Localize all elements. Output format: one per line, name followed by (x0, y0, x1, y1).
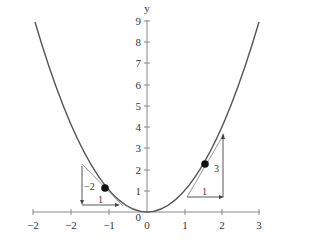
y-tick-label: 9 (136, 15, 142, 27)
y-axis-label: y (144, 2, 150, 14)
origin-label: 0 (136, 211, 142, 223)
y-tick-label: 4 (136, 121, 142, 133)
right-rise-label: 3 (214, 163, 219, 174)
y-tick-label: 7 (136, 57, 142, 69)
right-point-marker (201, 160, 209, 168)
y-tick-label: 1 (136, 185, 142, 197)
left-point-marker (101, 184, 109, 192)
left-rise-label: −2 (84, 181, 95, 192)
left-run-label: 1 (98, 194, 103, 205)
x-tick-label: −2 (65, 219, 77, 231)
y-tick-label: 5 (136, 100, 142, 112)
parabola-chart: −2 −2 −1 0 1 2 3 0 1 2 3 4 5 6 7 8 9 y −… (0, 0, 333, 240)
x-tick-label: 2 (219, 219, 225, 231)
y-tick-label: 3 (136, 142, 142, 154)
x-tick-label: −1 (103, 219, 115, 231)
x-tick-label: 1 (182, 219, 188, 231)
right-run-label: 1 (202, 186, 207, 197)
y-tick-label: 2 (136, 164, 142, 176)
x-tick-label: −2 (27, 219, 39, 231)
y-tick-label: 6 (136, 79, 142, 91)
arrowhead-icon (221, 133, 225, 139)
arrowhead-icon (115, 203, 120, 207)
x-tick-label: 3 (256, 219, 262, 231)
y-tick-label: 8 (136, 36, 142, 48)
arrowhead-icon (80, 200, 84, 205)
x-tick-label: 0 (144, 219, 150, 231)
